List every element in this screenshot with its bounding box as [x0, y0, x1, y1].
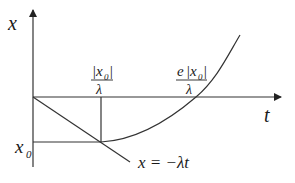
x0-label: x	[14, 136, 24, 157]
diagram-canvas: x t x 0 |x 0 | λ e |x 0 | λ x = −λt	[0, 0, 295, 183]
svg-text:|: |	[203, 63, 207, 79]
line-equation-label: x = −λt	[137, 153, 190, 172]
tick1-fraction: |x 0 | λ	[91, 63, 113, 97]
tick2-fraction: e |x 0 | λ	[176, 63, 207, 97]
line-x-eq-minus-lambda-t	[33, 97, 130, 162]
t-axis-label: t	[264, 104, 270, 126]
svg-text:|x: |x	[92, 63, 103, 79]
svg-text:λ: λ	[185, 82, 192, 97]
svg-text:|x: |x	[186, 63, 197, 79]
x-axis-label: x	[7, 12, 17, 34]
svg-text:|: |	[109, 63, 113, 79]
svg-text:λ: λ	[95, 82, 102, 97]
x0-subscript: 0	[26, 148, 32, 160]
svg-text:e: e	[177, 63, 184, 79]
trajectory-curve	[101, 35, 240, 142]
